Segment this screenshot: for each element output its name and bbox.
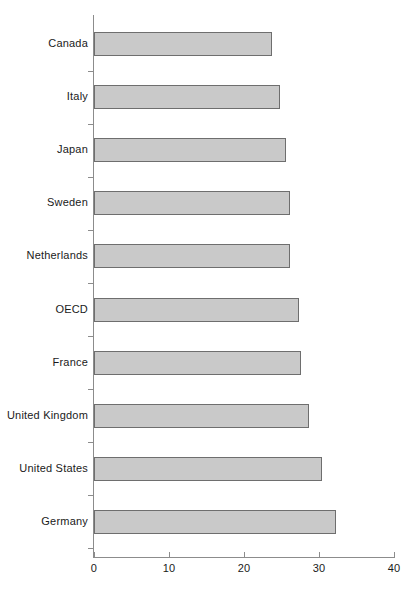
y-axis-tick (88, 389, 94, 390)
x-axis-tick-label: 10 (163, 562, 176, 574)
x-axis-tick-label: 40 (388, 562, 401, 574)
category-label-italy: Italy (0, 90, 88, 102)
y-axis-tick (88, 336, 94, 337)
bar-sweden (94, 191, 290, 215)
bar-chart: CanadaItalyJapanSwedenNetherlandsOECDFra… (0, 0, 415, 596)
bar-oecd (94, 298, 299, 322)
y-axis-tick (88, 283, 94, 284)
category-label-oecd: OECD (0, 303, 88, 315)
x-axis-tick-label: 20 (238, 562, 251, 574)
bar-japan (94, 138, 286, 162)
y-axis-tick (88, 442, 94, 443)
bar-united-states (94, 457, 322, 481)
y-axis-tick (88, 548, 94, 549)
x-axis-tick-label: 30 (313, 562, 326, 574)
category-label-japan: Japan (0, 143, 88, 155)
bar-france (94, 351, 301, 375)
y-axis-tick (88, 177, 94, 178)
y-axis-tick (88, 495, 94, 496)
category-label-canada: Canada (0, 37, 88, 49)
bar-germany (94, 510, 336, 534)
category-label-sweden: Sweden (0, 196, 88, 208)
bar-netherlands (94, 244, 290, 268)
category-label-united-states: United States (0, 462, 88, 474)
category-label-united-kingdom: United Kingdom (0, 409, 88, 421)
x-axis-tick-label: 0 (91, 562, 97, 574)
x-axis-tick (169, 552, 170, 558)
x-axis-tick (394, 552, 395, 558)
category-label-netherlands: Netherlands (0, 249, 88, 261)
y-axis-tick (88, 71, 94, 72)
category-label-germany: Germany (0, 515, 88, 527)
x-axis-tick (319, 552, 320, 558)
x-axis-tick (94, 552, 95, 558)
bar-canada (94, 32, 272, 56)
y-axis-tick (88, 124, 94, 125)
bar-united-kingdom (94, 404, 309, 428)
y-axis-tick (88, 230, 94, 231)
category-label-france: France (0, 356, 88, 368)
x-axis-tick (244, 552, 245, 558)
bar-italy (94, 85, 280, 109)
